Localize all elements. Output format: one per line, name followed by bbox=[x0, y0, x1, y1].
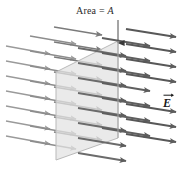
area-label: Area = A bbox=[76, 5, 114, 16]
area-label-symbol: A bbox=[107, 5, 113, 16]
area-label-prefix: Area = bbox=[76, 5, 107, 16]
figure-canvas bbox=[0, 0, 183, 170]
electric-flux-figure: Area = A E bbox=[0, 0, 183, 170]
electric-field-label: E bbox=[163, 97, 171, 109]
